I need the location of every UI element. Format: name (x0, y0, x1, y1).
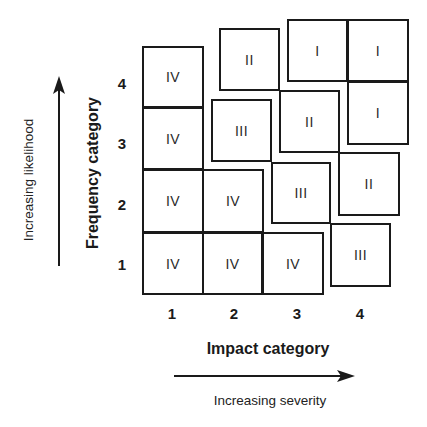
matrix-cell-impact2-freq3: III (211, 99, 272, 162)
matrix-cell-impact3-freq2: III (271, 162, 331, 224)
y-axis-subtitle: Increasing likelihood (21, 119, 36, 241)
y-tick-3: 3 (118, 135, 126, 152)
risk-class-label: I (376, 43, 380, 59)
y-axis-title: Frequency category (84, 97, 102, 249)
matrix-cell-impact3-freq4: I (287, 19, 348, 82)
x-tick-3: 3 (293, 305, 301, 322)
risk-class-label: IV (226, 193, 240, 209)
x-tick-1: 1 (168, 305, 176, 322)
matrix-cell-impact1-freq2: IV (142, 169, 204, 233)
matrix-cell-impact1-freq3: IV (142, 107, 204, 170)
x-tick-4: 4 (356, 305, 364, 322)
matrix-cell-impact4-freq2: II (338, 152, 400, 216)
risk-class-label: IV (286, 256, 300, 272)
risk-class-label: III (354, 247, 367, 263)
right-arrow-icon (174, 367, 356, 385)
matrix-cell-impact4-freq3: I (347, 81, 409, 145)
risk-class-label: IV (166, 193, 180, 209)
matrix-cell-impact1-freq4: IV (142, 46, 204, 108)
up-arrow-icon (50, 76, 70, 268)
risk-class-label: IV (225, 256, 239, 272)
x-axis-title: Impact category (207, 340, 330, 358)
matrix-cell-impact4-freq4: I (347, 19, 409, 82)
risk-class-label: I (376, 105, 380, 121)
matrix-cell-impact4-freq1: III (330, 223, 391, 287)
matrix-cell-impact2-freq2: IV (202, 169, 264, 233)
matrix-cell-impact3-freq3: II (279, 90, 340, 153)
risk-class-label: II (305, 114, 314, 130)
risk-class-label: III (235, 123, 248, 139)
y-tick-4: 4 (118, 75, 126, 92)
risk-class-label: IV (166, 69, 180, 85)
risk-class-label: IV (166, 256, 180, 272)
x-axis-subtitle: Increasing severity (214, 393, 327, 408)
x-tick-2: 2 (230, 305, 238, 322)
y-tick-1: 1 (118, 256, 126, 273)
matrix-cell-impact2-freq1: IV (202, 232, 263, 295)
matrix-cell-impact1-freq1: IV (142, 232, 204, 295)
risk-class-label: IV (166, 131, 180, 147)
risk-class-label: III (294, 185, 307, 201)
risk-matrix-diagram: Increasing likelihood Frequency category… (0, 0, 427, 427)
y-tick-2: 2 (118, 196, 126, 213)
matrix-cell-impact3-freq1: IV (262, 232, 324, 295)
matrix-cell-impact2-freq4: II (219, 28, 280, 91)
risk-class-label: II (365, 176, 374, 192)
risk-class-label: I (315, 43, 319, 59)
risk-class-label: II (245, 52, 254, 68)
